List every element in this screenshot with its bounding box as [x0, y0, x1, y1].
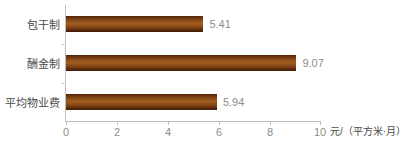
bar-baoganzhi	[66, 16, 203, 32]
y-axis-tick	[61, 44, 66, 45]
x-axis-tick-label: 8	[258, 125, 282, 139]
bar-value-label: 9.07	[302, 55, 323, 71]
y-axis-tick	[61, 83, 66, 84]
x-axis-unit-label: 元/（平方米·月）	[330, 125, 406, 139]
bar-value-label: 5.41	[209, 16, 230, 32]
bar-row: 5.94	[0, 94, 420, 110]
x-axis-tick-label: 0	[54, 125, 78, 139]
x-axis-tick-label: 10	[308, 125, 332, 139]
bar-choujinzhi	[66, 55, 296, 71]
x-axis-tick-label: 4	[156, 125, 180, 139]
bar-chart: 0 2 4 6 8 10 元/（平方米·月） 包干制 酬金制 平均物业费 5.4…	[0, 0, 420, 153]
x-axis-tick-label: 2	[105, 125, 129, 139]
bar-row: 5.41	[0, 16, 420, 32]
bar-value-label: 5.94	[223, 94, 244, 110]
bar-average-fee	[66, 94, 217, 110]
bar-row: 9.07	[0, 55, 420, 71]
x-axis-line	[66, 121, 321, 122]
x-axis-tick-label: 6	[207, 125, 231, 139]
